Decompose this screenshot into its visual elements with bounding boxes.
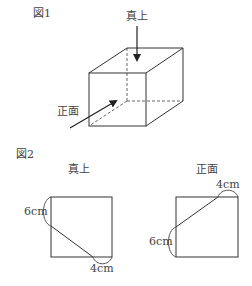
cube-right-face [146,48,183,126]
figure1-front-label: 正面 [57,106,79,118]
figure2-title: 図2 [16,149,34,161]
cube-top-face [89,48,183,73]
cube-front-face [89,73,146,126]
figure1-top-label: 真上 [126,11,148,23]
top-view-label: 真上 [68,164,90,176]
front-view-cut-line [176,197,218,227]
hidden-edges [89,48,183,126]
front-view-square [169,190,239,257]
cube [89,48,183,126]
top-view-4cm-label: 4cm [90,263,114,275]
front-view-4cm-label: 4cm [216,179,240,191]
front-view-4cm-brace [218,190,238,197]
top-view-square [44,197,113,264]
front-view-label: 正面 [196,164,218,176]
figure1-title: 図1 [33,8,51,20]
front-view-6cm-label: 6cm [149,236,173,248]
diagram-canvas [0,0,252,286]
top-view-6cm-label: 6cm [24,206,48,218]
top-view-cut-line [51,226,93,257]
